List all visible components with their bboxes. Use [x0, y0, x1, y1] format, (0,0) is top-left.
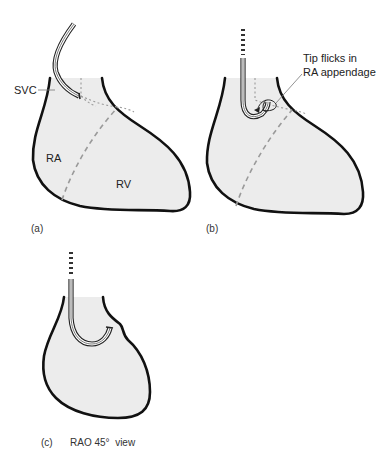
caption-b: (b)	[206, 223, 218, 234]
svc-label: SVC	[14, 84, 37, 96]
annotation-line-1: Tip flicks in	[303, 52, 357, 64]
caption-c: (c)	[41, 437, 53, 448]
caption-a: (a)	[31, 223, 43, 234]
panel-c: (c) RAO 45° view	[41, 252, 150, 448]
rv-label: RV	[116, 178, 132, 190]
annotation-line-2: RA appendage	[303, 66, 376, 78]
panel-a: SVC RA RV (a)	[14, 24, 190, 234]
ra-label: RA	[46, 152, 62, 164]
catheter-position-diagram: SVC RA RV (a) Tip flicks in RA appendage…	[0, 0, 382, 455]
panel-b: Tip flicks in RA appendage (b)	[206, 29, 376, 234]
view-label: RAO 45° view	[70, 437, 136, 448]
